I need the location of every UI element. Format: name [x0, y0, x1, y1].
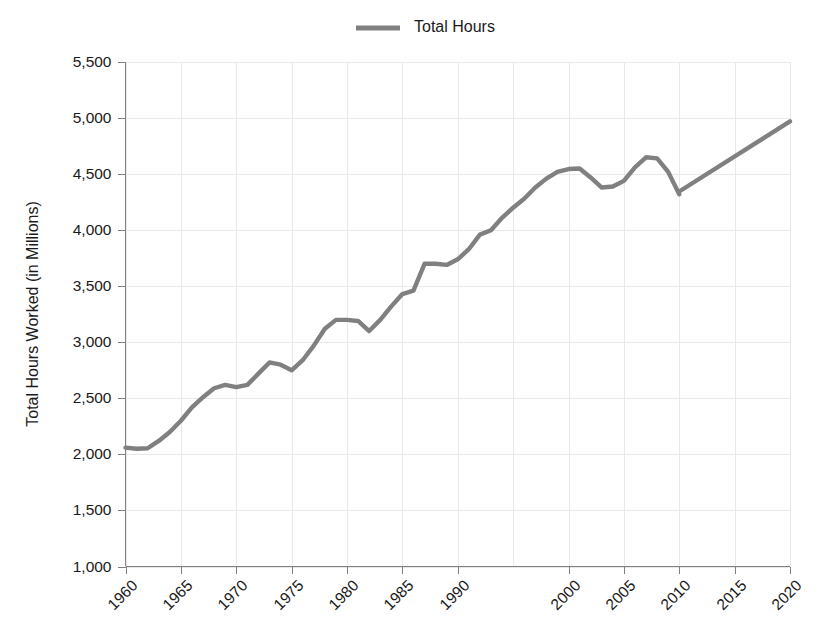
y-axis-tick-label: 2,500 — [73, 389, 112, 406]
legend-label-total-hours: Total Hours — [414, 18, 495, 35]
y-axis-tick-label: 4,500 — [73, 165, 112, 182]
y-axis-tick-label: 3,000 — [73, 333, 112, 350]
chart-background — [0, 0, 826, 627]
y-axis-tick-label: 5,500 — [73, 53, 112, 70]
y-axis-tick-label: 4,000 — [73, 221, 112, 238]
y-axis-tick-label: 5,000 — [73, 109, 112, 126]
y-axis-tick-label: 3,500 — [73, 277, 112, 294]
y-axis-tick-label: 1,000 — [73, 558, 112, 575]
y-axis-tick-label: 2,000 — [73, 445, 112, 462]
y-axis-tick-label: 1,500 — [73, 501, 112, 518]
chart-canvas: 1,0001,5002,0002,5003,0003,5004,0004,500… — [0, 0, 826, 627]
y-axis-title: Total Hours Worked (in Millions) — [24, 201, 41, 427]
line-chart: 1,0001,5002,0002,5003,0003,5004,0004,500… — [0, 0, 826, 627]
